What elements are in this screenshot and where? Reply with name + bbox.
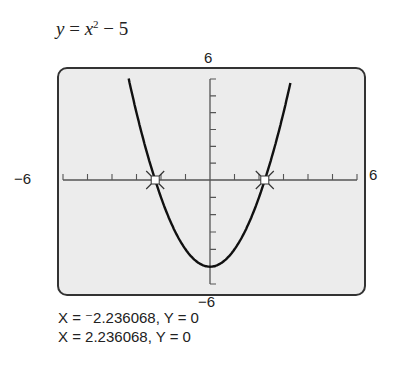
ymax-label: 6	[204, 49, 212, 66]
equation-title: y = x2 − 5	[56, 18, 128, 40]
xmin-label: −6	[14, 170, 31, 187]
cursor-spoke	[146, 171, 151, 176]
intersect-marker	[261, 176, 269, 184]
cursor-spoke	[256, 171, 261, 176]
title-eq: =	[64, 18, 84, 39]
cursor-spoke	[146, 184, 151, 189]
cursor-spoke	[159, 184, 164, 189]
graph-plot	[59, 69, 364, 294]
cursor-spoke	[269, 184, 274, 189]
cursor-spoke	[159, 171, 164, 176]
intersect-marker	[151, 176, 159, 184]
xmax-label: 6	[369, 166, 377, 183]
calculator-screen	[57, 67, 366, 296]
result-line-2: X = 2.236068, Y = 0	[58, 328, 191, 345]
cursor-spoke	[269, 171, 274, 176]
title-x: x	[85, 18, 93, 39]
title-rest: − 5	[99, 18, 129, 39]
cursor-spoke	[256, 184, 261, 189]
result-line-1: X = ⁻2.236068, Y = 0	[58, 309, 199, 327]
